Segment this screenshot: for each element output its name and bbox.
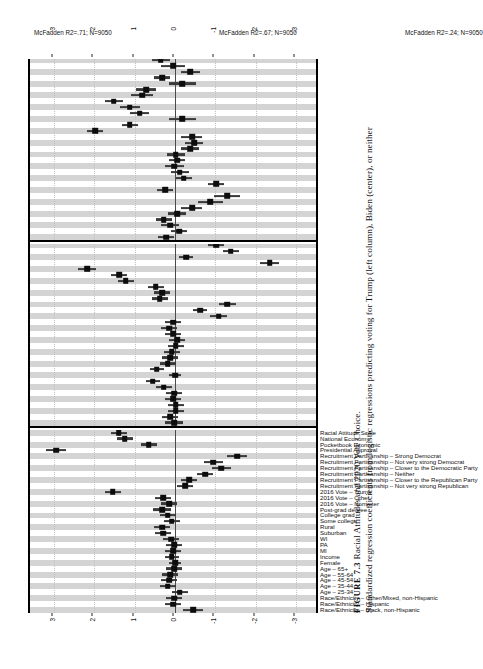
category-band	[30, 307, 316, 313]
point-estimate-marker	[146, 442, 152, 448]
variable-label: Age – 45-54	[320, 577, 353, 583]
panel-fit-note-neither: McFadden R2=.24; N=9050	[405, 29, 483, 36]
axis-tick-mark	[52, 613, 53, 616]
category-band	[30, 92, 316, 98]
axis-tick-mark	[253, 54, 254, 57]
variable-label: Income	[320, 554, 340, 560]
axis-tick-label: 0	[170, 618, 177, 622]
axis-tick-mark	[52, 54, 53, 57]
category-band	[30, 495, 316, 501]
category-band	[30, 384, 316, 390]
point-estimate-marker	[165, 513, 171, 519]
point-estimate-marker	[172, 373, 178, 379]
axis-tick-mark	[173, 54, 174, 57]
point-estimate-marker	[189, 205, 195, 211]
category-band	[30, 187, 316, 193]
point-estimate-marker	[167, 355, 173, 361]
panel-plot-biden	[30, 244, 316, 425]
caption-description: Standardized regression coefficients fro…	[364, 13, 374, 613]
point-estimate-marker	[169, 554, 175, 560]
point-estimate-marker	[159, 290, 165, 296]
gridline	[296, 430, 297, 613]
category-band	[30, 87, 316, 93]
point-estimate-marker	[174, 337, 180, 343]
gridline	[215, 244, 216, 425]
axis-tick-mark	[173, 613, 174, 616]
point-estimate-marker	[165, 361, 171, 367]
point-estimate-marker	[139, 93, 145, 99]
point-estimate-marker	[127, 122, 133, 128]
point-estimate-marker	[219, 465, 225, 471]
point-estimate-marker	[173, 408, 179, 414]
variable-label: PA	[320, 542, 328, 548]
point-estimate-marker	[154, 367, 160, 373]
point-estimate-marker	[171, 595, 177, 601]
gridline	[54, 59, 55, 240]
point-estimate-marker	[179, 116, 185, 122]
point-estimate-marker	[188, 69, 194, 75]
point-estimate-marker	[174, 158, 180, 164]
variable-label: Race/Ethnicity – Other/Mixed, non-Hispan…	[320, 595, 438, 601]
gridline	[256, 244, 257, 425]
point-estimate-marker	[216, 313, 222, 319]
category-band	[30, 442, 316, 448]
category-band	[30, 278, 316, 284]
variable-label: MI	[320, 548, 327, 554]
gridline	[94, 430, 95, 613]
point-estimate-marker	[171, 390, 177, 396]
point-estimate-marker	[117, 272, 123, 278]
point-estimate-marker	[174, 211, 180, 217]
category-band	[30, 205, 316, 211]
variable-label: Recruitment Partisanship – Not very stro…	[320, 483, 468, 489]
point-estimate-marker	[183, 254, 189, 260]
category-band	[30, 248, 316, 254]
axis-tick-label: -2	[250, 27, 257, 33]
axis-tick-mark	[132, 613, 133, 616]
category-band	[30, 128, 316, 134]
point-estimate-marker	[177, 590, 183, 596]
axis-scale-trump: -3-2-10123	[28, 27, 318, 57]
axis-tick-label: 0	[170, 27, 177, 31]
point-estimate-marker	[159, 75, 165, 81]
category-band	[30, 140, 316, 146]
point-estimate-marker	[150, 379, 156, 385]
point-estimate-marker	[210, 460, 216, 466]
axis-tick-label: -1	[210, 618, 217, 624]
point-estimate-marker	[171, 566, 177, 572]
point-estimate-marker	[122, 436, 128, 442]
gridline	[54, 244, 55, 425]
axis-tick-mark	[92, 54, 93, 57]
point-estimate-marker	[53, 448, 59, 454]
point-estimate-marker	[186, 477, 192, 483]
point-estimate-marker	[170, 331, 176, 337]
point-estimate-marker	[177, 169, 183, 175]
point-estimate-marker	[159, 525, 165, 531]
category-band	[30, 199, 316, 205]
gridline	[256, 59, 257, 240]
point-estimate-marker	[166, 501, 172, 507]
axis-tick-mark	[92, 613, 93, 616]
category-band	[30, 483, 316, 489]
point-estimate-marker	[84, 266, 90, 272]
axis-tick-label: 1	[129, 618, 136, 622]
point-estimate-marker	[167, 572, 173, 578]
point-estimate-marker	[170, 396, 176, 402]
point-estimate-marker	[171, 420, 177, 426]
variable-label: Age – 35-44	[320, 583, 353, 589]
gridline	[215, 59, 216, 240]
axis-tick-label: -3	[290, 618, 297, 624]
category-band	[30, 530, 316, 536]
gridline	[94, 244, 95, 425]
point-estimate-marker	[158, 59, 164, 63]
category-band	[30, 69, 316, 75]
point-estimate-marker	[166, 578, 172, 584]
point-estimate-marker	[165, 584, 171, 590]
category-band	[30, 266, 316, 272]
category-band	[30, 75, 316, 81]
category-band	[30, 471, 316, 477]
axis-scale-left: -3-2-10123	[28, 613, 318, 643]
figure-title: Racial Attitudes and 2020 Vote Choice.	[352, 411, 362, 559]
figure-caption: FIGURE 7.3 Racial Attitudes and 2020 Vot…	[352, 13, 374, 613]
